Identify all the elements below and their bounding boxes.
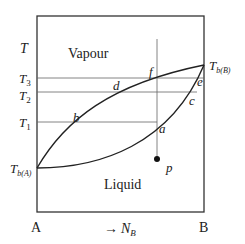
component-a-label: A (31, 220, 42, 235)
phase-diagram: Vapour Liquid T T3 T2 T1 Tb(A) Tb(B) a b… (0, 0, 245, 244)
point-a-label: a (159, 121, 166, 136)
component-b-label: B (199, 220, 208, 235)
point-f-label: f (149, 64, 155, 79)
composition-axis-label: →NB (104, 221, 136, 238)
point-p-dot (154, 156, 160, 162)
point-b-label: b (73, 110, 80, 125)
tick-t3: T3 (19, 71, 31, 88)
point-c-label: c (189, 93, 195, 108)
temperature-axis-label: T (20, 41, 29, 56)
tick-t2: T2 (19, 88, 31, 105)
region-liquid-label: Liquid (104, 177, 141, 192)
tb-a-label: Tb(A) (10, 161, 32, 178)
tick-t1: T1 (19, 115, 31, 132)
point-d-label: d (113, 78, 120, 93)
point-e-label: e (197, 74, 203, 89)
liquid-curve (37, 65, 204, 168)
point-p-label: p (165, 160, 173, 175)
region-vapour-label: Vapour (68, 46, 109, 61)
tb-b-label: Tb(B) (209, 58, 231, 75)
